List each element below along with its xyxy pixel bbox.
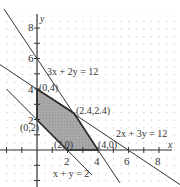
y-tick-label-6: 6 (28, 52, 34, 64)
x-tick-label-6: 6 (124, 155, 130, 167)
label-3x-2y-12: 3x + 2y = 12 (47, 66, 98, 77)
x-tick-label-8: 8 (155, 155, 161, 167)
label-x-y-2: x + y = 2 (53, 168, 89, 179)
y-axis-label: y (39, 13, 45, 24)
x-tick-label-4: 4 (94, 155, 100, 167)
vertex-label-2.4-2.4: (2.4,2.4) (76, 105, 110, 117)
vertex-label-4-0: (4,0) (98, 139, 117, 151)
vertex-label-0-2: (0,2) (20, 122, 39, 134)
vertex-label-2-0: (2,0) (54, 139, 73, 151)
label-2x-3y-12: 2x + 3y = 12 (116, 128, 167, 139)
graph-canvas: 2 4 6 8 2 4 6 8 y x 3x + 2y = 12 2x + 3y… (0, 0, 180, 187)
y-tick-label-4: 4 (28, 83, 34, 95)
x-axis-label: x (167, 139, 173, 150)
vertex-label-0-4: (0,4) (39, 82, 58, 94)
x-tick-label-2: 2 (64, 155, 70, 167)
dotted-grid (0, 14, 180, 187)
y-tick-label-8: 8 (28, 21, 34, 33)
